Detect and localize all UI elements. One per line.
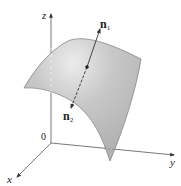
normal-n1-subscript: 1 — [107, 24, 111, 32]
z-axis-label: z — [41, 9, 47, 21]
normal-n1-label: n1 — [100, 17, 111, 32]
x-axis — [17, 143, 51, 177]
x-axis-label: x — [6, 173, 12, 185]
normal-n2-subscript: 2 — [70, 116, 74, 124]
surface-diagram: z y x 0 n1 n2 — [0, 0, 181, 186]
origin-label: 0 — [41, 131, 46, 142]
y-axis-label: y — [169, 156, 175, 168]
normal-n2-label: n2 — [63, 109, 74, 124]
surface-point — [85, 65, 89, 69]
curved-surface — [24, 39, 141, 161]
